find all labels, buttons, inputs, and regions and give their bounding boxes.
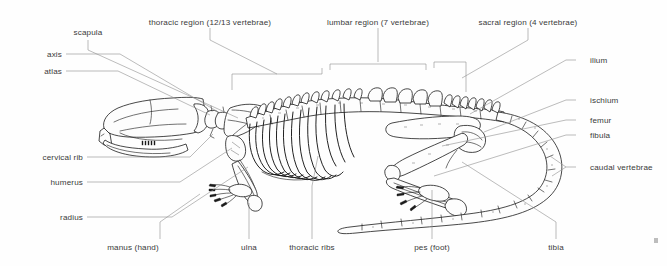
leader-thoracic-region bbox=[210, 28, 277, 74]
skull-group bbox=[99, 97, 209, 157]
label-ischium: ischium bbox=[590, 96, 619, 105]
hindlimb-group bbox=[385, 133, 468, 216]
anatomical-diagram: scapula thoracic region (12/13 vertebrae… bbox=[0, 0, 667, 266]
label-thoracic-ribs: thoracic ribs bbox=[289, 243, 335, 252]
label-manus: manus (hand) bbox=[107, 243, 159, 252]
leader-radius bbox=[87, 167, 248, 217]
label-femur: femur bbox=[590, 116, 612, 125]
region-brackets bbox=[232, 62, 466, 92]
label-thoracic-region: thoracic region (12/13 vertebrae) bbox=[149, 18, 272, 27]
label-cervical-rib: cervical rib bbox=[43, 153, 84, 162]
thoracic-bracket bbox=[232, 68, 322, 90]
skeleton-drawing bbox=[99, 88, 562, 234]
label-tibia: tibia bbox=[548, 243, 564, 252]
label-humerus: humerus bbox=[50, 178, 83, 187]
teeth-icon bbox=[142, 141, 155, 145]
label-caudal-vertebrae: caudal vertebrae bbox=[590, 163, 653, 172]
manus-group bbox=[209, 184, 252, 207]
label-atlas: atlas bbox=[44, 67, 62, 76]
label-radius: radius bbox=[60, 213, 83, 222]
label-sacral-region: sacral region (4 vertebrae) bbox=[479, 18, 578, 27]
leader-sacral-region bbox=[462, 28, 528, 78]
label-fibula: fibula bbox=[590, 131, 611, 140]
label-ilium: ilium bbox=[590, 56, 607, 65]
leader-manus bbox=[160, 194, 200, 239]
corner-artifact-mark bbox=[654, 238, 658, 243]
lumbar-bracket bbox=[330, 64, 426, 70]
sacral-bracket bbox=[434, 62, 466, 92]
label-scapula: scapula bbox=[74, 28, 103, 37]
label-ulna: ulna bbox=[241, 243, 257, 252]
label-pes: pes (foot) bbox=[414, 243, 450, 252]
label-lumbar-region: lumbar region (7 vertebrae) bbox=[327, 18, 429, 27]
label-axis: axis bbox=[47, 50, 62, 59]
leader-thoracic-ribs bbox=[312, 156, 318, 239]
forelimb-group bbox=[209, 135, 262, 211]
